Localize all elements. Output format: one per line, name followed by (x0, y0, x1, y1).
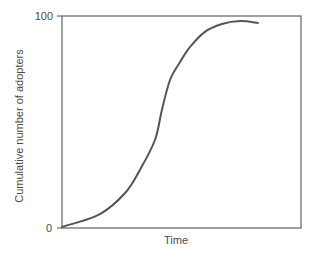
y-tick-label-100: 100 (35, 10, 53, 22)
y-tick-label-0: 0 (46, 222, 52, 234)
x-axis-label: Time (164, 234, 188, 246)
adoption-s-curve (62, 21, 258, 227)
y-axis-label: Cumulative number of adopters (13, 49, 25, 203)
plot-frame (62, 16, 301, 228)
s-curve-chart: 100 0 Cumulative number of adopters Time (0, 0, 320, 254)
